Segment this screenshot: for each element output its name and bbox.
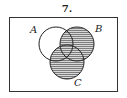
- label-a: A: [30, 24, 37, 35]
- label-b: B: [95, 23, 102, 34]
- venn-diagram: [0, 0, 127, 98]
- label-c: C: [74, 77, 82, 88]
